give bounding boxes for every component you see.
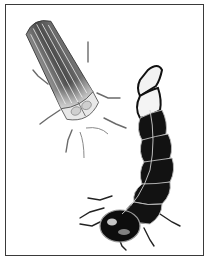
larva-segments (124, 110, 174, 224)
adult-firefly (20, 14, 126, 158)
adult-antennae (80, 128, 108, 158)
firefly-illustration (0, 0, 211, 264)
adult-body (20, 14, 102, 125)
larva-head (100, 210, 140, 242)
firefly-larva (80, 66, 180, 250)
